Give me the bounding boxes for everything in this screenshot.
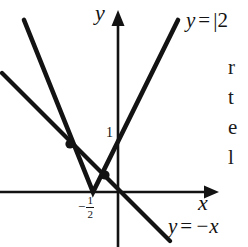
curve-absolute-value <box>24 20 178 192</box>
line-equation-operator: = <box>177 214 195 238</box>
curve-equation-rhs: |2 <box>213 8 229 32</box>
margin-text-line: e <box>228 112 248 142</box>
clipped-margin-text: r t e l <box>228 52 248 172</box>
fraction-sign: − <box>78 200 85 215</box>
fraction: 1 2 <box>86 195 94 220</box>
line-equation-annotation: y=−x <box>168 216 219 237</box>
curve-equation-operator: = <box>195 8 213 32</box>
curve-equation-annotation: y=|2 <box>186 10 229 31</box>
fraction-numerator: 1 <box>87 195 95 207</box>
line-equation-lhs: y <box>168 214 177 238</box>
margin-text-line: t <box>228 82 248 112</box>
y-axis-label: y <box>95 2 105 24</box>
x-tick-label-negative-one-half: − 1 2 <box>78 195 94 220</box>
line-equation-rhs: −x <box>195 214 219 238</box>
x-axis-label: x <box>198 192 208 214</box>
fraction-denominator: 2 <box>87 208 95 220</box>
absolute-value-graph-figure: y x 1 − 1 2 y=|2 y=−x r t e l <box>0 0 248 247</box>
intersection-point-lower <box>100 170 109 179</box>
curve-equation-lhs: y <box>186 8 195 32</box>
y-tick-label-one: 1 <box>106 126 113 140</box>
margin-text-line: l <box>228 142 248 172</box>
intersection-point-upper <box>65 139 74 148</box>
margin-text-line: r <box>228 52 248 82</box>
graph-canvas <box>0 0 248 247</box>
x-axis <box>0 186 219 199</box>
